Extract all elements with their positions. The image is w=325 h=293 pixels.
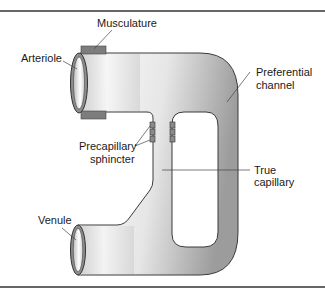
musculature-band-top xyxy=(81,46,106,54)
label-true-capillary-line1: True xyxy=(254,164,276,176)
musculature-band-bottom xyxy=(81,111,106,119)
capillary-loop-hole xyxy=(172,112,218,247)
label-venule: Venule xyxy=(38,214,72,226)
label-preferential-channel-line2: channel xyxy=(256,79,295,91)
sphincter-left xyxy=(150,122,155,142)
arteriole-opening-inner xyxy=(74,57,85,109)
label-arteriole: Arteriole xyxy=(21,52,62,64)
label-precapillary-sphincter-line1: Precapillary xyxy=(79,140,137,152)
label-musculature: Musculature xyxy=(97,17,157,29)
sphincter-right xyxy=(170,122,175,142)
label-preferential-channel-line1: Preferential xyxy=(256,66,312,78)
venule-opening-inner xyxy=(73,229,83,272)
label-precapillary-sphincter-line2: sphincter xyxy=(90,153,135,165)
capillary-bed-diagram: Musculature Arteriole Preferential chann… xyxy=(0,0,325,293)
arteriole-shade xyxy=(80,54,140,111)
venule-shade xyxy=(79,226,134,274)
label-true-capillary-line2: capillary xyxy=(254,176,295,188)
